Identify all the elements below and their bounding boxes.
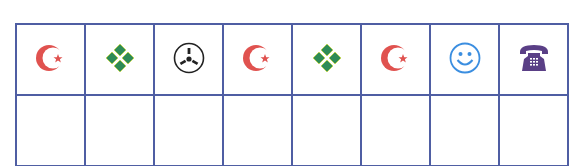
telephone-icon: [517, 41, 551, 75]
answer-cell-1[interactable]: [16, 95, 85, 166]
icon-grid: [15, 23, 569, 166]
radioactive-circle-icon: [172, 41, 206, 75]
four-diamonds-icon: [103, 41, 137, 75]
icon-row: [16, 24, 568, 95]
smiley-face-icon: [448, 41, 482, 75]
crescent-star-icon: [241, 41, 275, 75]
grid-cell-5[interactable]: [292, 24, 361, 95]
crescent-star-icon: [34, 41, 68, 75]
answer-cell-5[interactable]: [292, 95, 361, 166]
answer-cell-2[interactable]: [85, 95, 154, 166]
answer-cell-8[interactable]: [499, 95, 568, 166]
answer-cell-7[interactable]: [430, 95, 499, 166]
four-diamonds-icon: [310, 41, 344, 75]
crescent-star-icon: [379, 41, 413, 75]
grid-cell-1[interactable]: [16, 24, 85, 95]
grid-cell-4[interactable]: [223, 24, 292, 95]
empty-row: [16, 95, 568, 166]
answer-cell-4[interactable]: [223, 95, 292, 166]
answer-cell-6[interactable]: [361, 95, 430, 166]
grid-cell-2[interactable]: [85, 24, 154, 95]
grid-cell-6[interactable]: [361, 24, 430, 95]
grid-cell-8[interactable]: [499, 24, 568, 95]
grid-cell-3[interactable]: [154, 24, 223, 95]
grid-cell-7[interactable]: [430, 24, 499, 95]
answer-cell-3[interactable]: [154, 95, 223, 166]
